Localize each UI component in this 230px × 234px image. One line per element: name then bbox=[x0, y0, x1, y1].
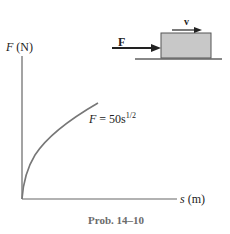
velocity-label: v bbox=[184, 17, 189, 27]
x-axis-label: s (m) bbox=[180, 193, 205, 205]
curve-equation-label: F = 50s1/2 bbox=[89, 112, 136, 125]
eq-exponent: 1/2 bbox=[126, 111, 136, 120]
force-curve bbox=[22, 103, 98, 199]
eq-rhs: = 50s bbox=[96, 112, 125, 126]
x-axis-unit: (m) bbox=[188, 192, 205, 206]
force-label: F bbox=[118, 36, 125, 48]
block bbox=[161, 33, 211, 58]
y-axis-var: F bbox=[6, 40, 13, 54]
y-axis-unit: (N) bbox=[16, 40, 33, 54]
velocity-arrowhead-icon bbox=[194, 27, 202, 33]
force-arrowhead-icon bbox=[151, 44, 161, 52]
y-axis-label: F (N) bbox=[6, 41, 33, 53]
figure-caption: Prob. 14–10 bbox=[88, 214, 144, 226]
x-axis-var: s bbox=[180, 192, 185, 206]
